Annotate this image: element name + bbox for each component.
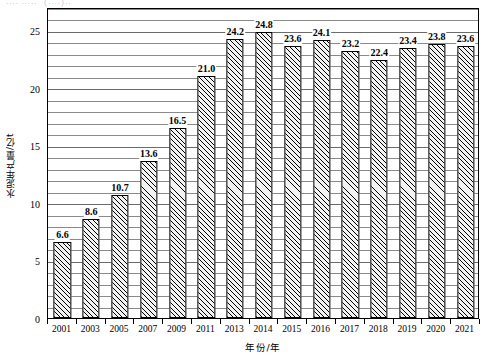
bar-value-label: 24.1 — [312, 27, 332, 38]
bar-slot: 23.2 — [336, 9, 365, 318]
x-axis-tick-label: 2014 — [254, 324, 273, 334]
bar-value-label: 23.4 — [398, 35, 418, 46]
bar[interactable] — [169, 128, 186, 318]
bar[interactable] — [140, 161, 157, 318]
bar-slot: 22.4 — [365, 9, 394, 318]
x-axis-tick-label: 2009 — [167, 324, 186, 334]
x-axis-tick — [479, 319, 480, 324]
bar-slot: 23.6 — [451, 9, 479, 318]
bar[interactable] — [342, 51, 359, 318]
x-axis-tick-label: 2017 — [340, 324, 359, 334]
x-axis-tick-label: 2005 — [110, 324, 129, 334]
bar[interactable] — [227, 39, 244, 318]
bar-slot: 24.1 — [307, 9, 336, 318]
bar-slot: 23.6 — [278, 9, 307, 318]
x-axis-tick-label: 2016 — [311, 324, 330, 334]
bar-slot: 8.6 — [77, 9, 106, 318]
x-axis-tick-label: 2020 — [426, 324, 445, 334]
bar[interactable] — [54, 242, 71, 318]
x-axis-tick-label: 2018 — [369, 324, 388, 334]
bar-value-label: 10.7 — [110, 182, 130, 193]
bar-series: 6.68.610.713.616.521.024.224.823.624.123… — [48, 9, 478, 318]
bar-value-label: 22.4 — [369, 47, 389, 58]
bar-value-label: 24.2 — [225, 26, 245, 37]
x-axis-title: 年份/年 — [47, 340, 479, 354]
bar[interactable] — [284, 46, 301, 318]
bar[interactable] — [371, 60, 388, 318]
x-axis-tick-label: 2021 — [455, 324, 474, 334]
y-axis-tick-label: 0 — [35, 314, 40, 325]
bar-slot: 21.0 — [192, 9, 221, 318]
bar[interactable] — [198, 76, 215, 318]
bar[interactable] — [313, 40, 330, 318]
bar-slot: 24.2 — [221, 9, 250, 318]
x-axis-tick-label: 2015 — [282, 324, 301, 334]
bar-slot: 13.6 — [134, 9, 163, 318]
plot-area: 6.68.610.713.616.521.024.224.823.624.123… — [47, 8, 479, 319]
bar-value-label: 23.2 — [341, 38, 361, 49]
x-axis-tick-label: 2019 — [398, 324, 417, 334]
x-axis-tick-label: 2007 — [138, 324, 157, 334]
y-axis-tick-label: 10 — [30, 198, 40, 209]
bar[interactable] — [428, 44, 445, 318]
bar-slot: 16.5 — [163, 9, 192, 318]
y-axis-tick-label: 20 — [30, 83, 40, 94]
bar-slot: 24.8 — [250, 9, 279, 318]
bar-value-label: 21.0 — [197, 63, 217, 74]
x-axis-tick-label: 2011 — [196, 324, 215, 334]
bar-value-label: 6.6 — [55, 229, 70, 240]
y-axis-tick-label: 25 — [30, 26, 40, 37]
bar[interactable] — [255, 32, 272, 318]
bar-value-label: 8.6 — [84, 206, 99, 217]
x-axis-tick-label: 2003 — [81, 324, 100, 334]
x-axis-tick-label: 2001 — [52, 324, 71, 334]
y-axis-title-text: 水泥年产量/亿t — [3, 133, 16, 198]
bar[interactable] — [83, 219, 100, 318]
bar-slot: 23.8 — [422, 9, 451, 318]
y-axis-tick-label: 5 — [35, 256, 40, 267]
bar-value-label: 24.8 — [254, 19, 274, 30]
bar[interactable] — [111, 195, 128, 318]
bar-value-label: 13.6 — [139, 148, 159, 159]
x-axis-tick-label: 2013 — [225, 324, 244, 334]
bar-value-label: 23.6 — [456, 33, 476, 44]
x-axis-tick-labels: 2001200320052007200920112013201420152016… — [47, 324, 479, 338]
y-axis-tick-label: 15 — [30, 141, 40, 152]
bar-slot: 10.7 — [106, 9, 135, 318]
bar[interactable] — [457, 46, 474, 318]
y-axis-tick-labels: 0510152025 — [18, 0, 44, 330]
y-axis-title: 水泥年产量/亿t — [0, 0, 18, 330]
bar[interactable] — [399, 48, 416, 318]
bar-value-label: 23.6 — [283, 33, 303, 44]
bar-value-label: 23.8 — [427, 31, 447, 42]
bar-slot: 23.4 — [394, 9, 423, 318]
bar-value-label: 16.5 — [168, 115, 188, 126]
bar-slot: 6.6 — [48, 9, 77, 318]
